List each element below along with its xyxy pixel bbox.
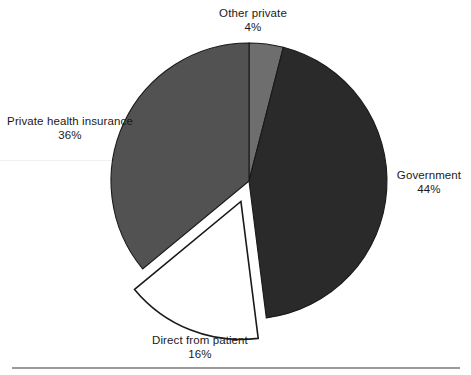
pie-label-private-health-insurance: Private health insurance 36% <box>2 114 138 143</box>
pie-label-government: Government 44% <box>390 168 468 197</box>
pie-label-other-private-name: Other private <box>193 6 313 20</box>
pie-label-other-private: Other private 4% <box>193 6 313 35</box>
pie-label-government-value: 44% <box>390 182 468 196</box>
pie-label-direct-from-patient: Direct from patient 16% <box>133 333 267 362</box>
pie-label-private-health-insurance-value: 36% <box>2 128 138 142</box>
pie-label-direct-from-patient-name: Direct from patient <box>133 333 267 347</box>
pie-label-other-private-value: 4% <box>193 20 313 34</box>
pie-chart-figure: Other private 4% Private health insuranc… <box>0 0 471 375</box>
bottom-rule <box>12 367 460 369</box>
pie-label-direct-from-patient-value: 16% <box>133 347 267 361</box>
pie-label-government-name: Government <box>390 168 468 182</box>
pie-label-private-health-insurance-name: Private health insurance <box>2 114 138 128</box>
pie-slices <box>111 43 387 339</box>
